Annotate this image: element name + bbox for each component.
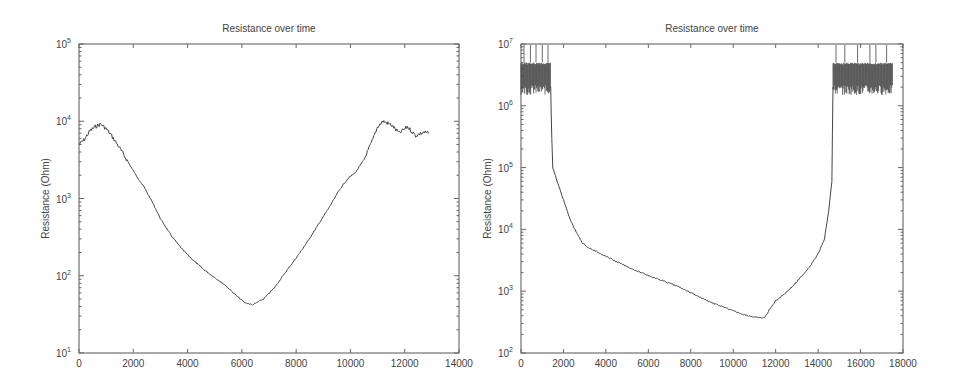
y-tick-label: 107 (498, 37, 513, 50)
right-chart: Resistance over timeResistance (Ohm)0200… (478, 0, 955, 388)
x-tick-label: 14000 (804, 358, 832, 369)
x-tick-label: 2000 (552, 358, 575, 369)
x-tick-label: 14000 (445, 358, 473, 369)
y-tick-label: 105 (56, 37, 71, 50)
y-tick-label: 106 (498, 99, 513, 112)
noise-band (833, 63, 892, 95)
x-tick-label: 10000 (719, 358, 747, 369)
x-tick-label: 4000 (176, 358, 199, 369)
y-tick-label: 105 (498, 161, 513, 174)
y-axis-label: Resistance (Ohm) (482, 158, 493, 239)
y-tick-label: 102 (56, 269, 71, 282)
x-tick-label: 16000 (847, 358, 875, 369)
x-tick-label: 4000 (595, 358, 618, 369)
x-tick-label: 12000 (762, 358, 790, 369)
x-tick-label: 2000 (122, 358, 145, 369)
x-tick-label: 8000 (285, 358, 308, 369)
noise-band (521, 63, 550, 95)
series-line (551, 87, 833, 318)
right-chart-svg: Resistance over timeResistance (Ohm)0200… (478, 0, 955, 388)
x-tick-label: 8000 (680, 358, 703, 369)
y-tick-label: 103 (498, 284, 513, 297)
y-axis-label: Resistance (Ohm) (40, 158, 51, 239)
x-tick-label: 12000 (391, 358, 419, 369)
series-line (79, 121, 429, 306)
y-tick-label: 101 (56, 346, 71, 359)
y-tick-label: 104 (498, 222, 513, 235)
y-tick-label: 104 (56, 114, 71, 127)
chart-title: Resistance over time (665, 23, 759, 34)
y-tick-label: 102 (498, 346, 513, 359)
chart-title: Resistance over time (222, 23, 316, 34)
x-tick-label: 6000 (637, 358, 660, 369)
x-tick-label: 6000 (231, 358, 254, 369)
plot-area (79, 44, 459, 353)
y-tick-label: 103 (56, 192, 71, 205)
x-tick-label: 10000 (337, 358, 365, 369)
left-chart-svg: Resistance over timeResistance (Ohm)0200… (0, 0, 478, 388)
x-tick-label: 0 (518, 358, 524, 369)
plot-area (521, 44, 903, 353)
x-tick-label: 0 (76, 358, 82, 369)
x-tick-label: 18000 (889, 358, 917, 369)
left-chart: Resistance over timeResistance (Ohm)0200… (0, 0, 478, 388)
